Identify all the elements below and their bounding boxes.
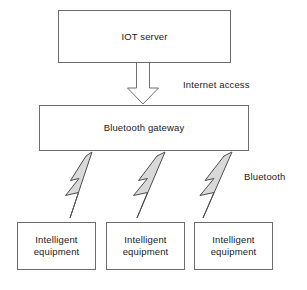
node-intelligent-equipment-2-label: Intelligent equipment <box>123 234 169 258</box>
node-bluetooth-gateway: Bluetooth gateway <box>39 105 249 151</box>
node-intelligent-equipment-1: Intelligent equipment <box>17 222 96 270</box>
bluetooth-bolt-3-shape <box>200 152 232 218</box>
internet-access-arrow-shape <box>128 62 159 104</box>
internet-access-arrow <box>128 62 159 104</box>
node-bluetooth-gateway-label: Bluetooth gateway <box>104 122 185 134</box>
bluetooth-bolt-1 <box>66 152 93 218</box>
diagram-canvas: IOT server Bluetooth gateway Intelligent… <box>0 0 307 290</box>
node-iot-server: IOT server <box>58 10 231 63</box>
bluetooth-bolt-2-shape <box>134 152 166 218</box>
bluetooth-bolt-1-shape <box>66 152 93 218</box>
node-iot-server-label: IOT server <box>121 31 167 43</box>
node-intelligent-equipment-1-label: Intelligent equipment <box>34 234 80 258</box>
edge-label-internet-access: Internet access <box>183 79 250 91</box>
edge-label-bluetooth: Bluetooth <box>244 171 286 183</box>
bluetooth-bolt-2 <box>134 152 166 218</box>
node-intelligent-equipment-2: Intelligent equipment <box>106 222 185 270</box>
node-intelligent-equipment-3: Intelligent equipment <box>194 222 273 270</box>
bluetooth-bolt-3 <box>200 152 232 218</box>
node-intelligent-equipment-3-label: Intelligent equipment <box>211 234 257 258</box>
